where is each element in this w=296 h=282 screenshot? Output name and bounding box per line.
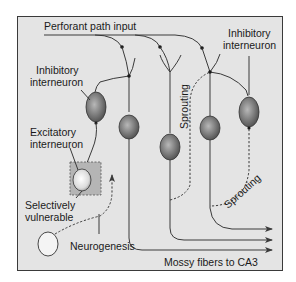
synapse-dot (208, 70, 212, 74)
label-inhibitory-left-2: interneuron (30, 76, 83, 88)
label-sprouting-vertical: Sprouting (178, 84, 190, 129)
inhibitory-interneuron-right-soma (239, 97, 259, 127)
newborn-neuron (38, 232, 58, 256)
label-perforant-path: Perforant path input (44, 20, 136, 32)
label-inhibitory-left-1: Inhibitory (36, 64, 79, 76)
label-vulnerable-2: vulnerable (25, 211, 74, 223)
granule-cell-3-soma (200, 116, 220, 140)
synapse-dot (127, 74, 131, 78)
label-mossy-fibers: Mossy fibers to CA3 (164, 256, 258, 268)
excitatory-interneuron-soma (73, 169, 91, 191)
granule-cell-1-soma (119, 115, 139, 139)
label-inhibitory-right-1: Inhibitory (228, 27, 271, 39)
label-excitatory-2: interneuron (30, 138, 83, 150)
label-neurogenesis: Neurogenesis (70, 240, 135, 252)
dentate-gyrus-diagram: Perforant path input Inhibitory interneu… (0, 0, 296, 282)
granule-cell-2-soma (160, 134, 180, 160)
inhibitory-interneuron-left-soma (86, 92, 106, 122)
label-vulnerable-1: Selectively (25, 199, 76, 211)
label-excitatory-1: Excitatory (30, 126, 77, 138)
label-inhibitory-right-2: interneuron (223, 39, 276, 51)
